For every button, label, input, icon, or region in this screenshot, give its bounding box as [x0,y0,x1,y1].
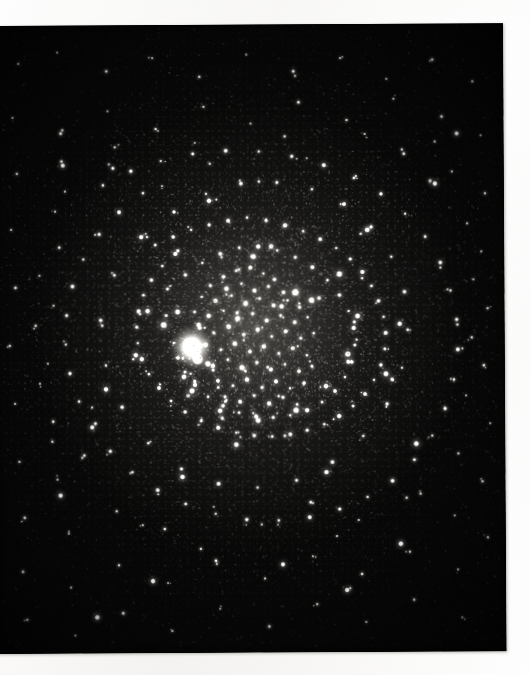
photographic-plate-frame [0,23,506,654]
scanned-page [0,0,530,675]
globular-cluster-starfield [0,23,506,654]
photographic-plate [0,23,506,654]
